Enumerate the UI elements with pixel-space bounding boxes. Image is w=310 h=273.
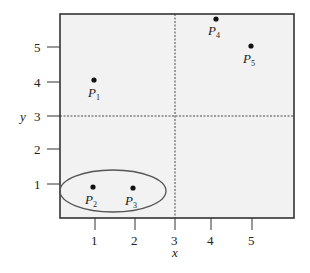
x-tick-5: 5 xyxy=(248,233,255,248)
x-tick-1: 1 xyxy=(91,233,98,248)
y-axis-title: y xyxy=(18,109,26,124)
x-tick-4: 4 xyxy=(207,233,214,248)
y-tick-3: 3 xyxy=(34,109,41,124)
x-axis: 1 2 3 4 5 x xyxy=(91,218,255,260)
y-tick-2: 2 xyxy=(34,142,41,157)
y-tick-1: 1 xyxy=(34,177,41,192)
x-tick-2: 2 xyxy=(131,233,138,248)
x-axis-title: x xyxy=(171,245,178,260)
y-tick-5: 5 xyxy=(34,40,41,55)
y-axis: 5 4 3 2 1 y xyxy=(18,40,60,192)
y-tick-4: 4 xyxy=(34,75,41,90)
scatter-figure: 5 4 3 2 1 y 1 2 3 4 5 x P1 P2 P3 xyxy=(0,0,310,273)
